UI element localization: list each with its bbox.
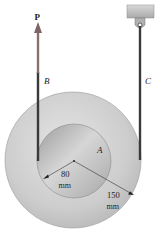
inner-radius-value: 80 xyxy=(61,169,70,179)
force-label: P xyxy=(35,12,41,22)
pulley-diagram: P B C A 80 mm 150 mm xyxy=(0,0,160,236)
inner-radius-unit: mm xyxy=(59,181,72,190)
outer-radius-unit: mm xyxy=(107,202,120,211)
center-label: A xyxy=(96,145,103,155)
arrow-up-icon xyxy=(34,22,42,33)
outer-radius-value: 150 xyxy=(107,190,120,200)
cable-c-label: C xyxy=(145,76,152,86)
ceiling-support xyxy=(127,5,154,18)
cable-b-label: B xyxy=(44,76,50,86)
